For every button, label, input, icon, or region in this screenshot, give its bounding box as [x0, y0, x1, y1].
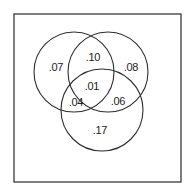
region-a-c-label: .04 [69, 96, 83, 108]
region-a-b-c-label: .01 [85, 80, 99, 92]
region-b-only-label: .08 [124, 61, 138, 73]
region-a-b-label: .10 [86, 51, 100, 63]
circle-set-c [61, 69, 143, 151]
region-a-only-label: .07 [49, 61, 63, 73]
venn-diagram [0, 0, 191, 192]
region-c-only-label: .17 [93, 124, 107, 136]
region-b-c-label: .06 [111, 95, 125, 107]
